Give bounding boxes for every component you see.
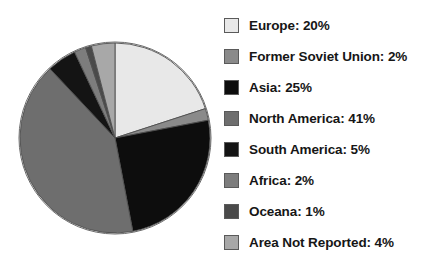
swatch-africa [224, 173, 239, 188]
legend-item-label: Asia: 25% [249, 81, 312, 95]
legend-item: Area Not Reported: 4% [224, 227, 437, 258]
legend-item: Asia: 25% [224, 72, 437, 103]
chart-legend: Europe: 20%Former Soviet Union: 2%Asia: … [224, 10, 437, 265]
legend-item-label: Africa: 2% [249, 174, 314, 188]
swatch-europe [224, 18, 239, 33]
legend-item: North America: 41% [224, 103, 437, 134]
legend-item: Former Soviet Union: 2% [224, 41, 437, 72]
legend-item-label: Europe: 20% [249, 19, 330, 33]
legend-item-label: South America: 5% [249, 143, 370, 157]
swatch-former-soviet-union [224, 49, 239, 64]
legend-item-label: Oceana: 1% [249, 205, 325, 219]
pie-chart-plot-area [0, 0, 220, 270]
legend-item-label: North America: 41% [249, 112, 375, 126]
swatch-asia [224, 80, 239, 95]
legend-item: South America: 5% [224, 134, 437, 165]
swatch-north-america [224, 111, 239, 126]
legend-item: Africa: 2% [224, 165, 437, 196]
pie-chart-figure: Europe: 20%Former Soviet Union: 2%Asia: … [0, 0, 437, 270]
swatch-oceana [224, 204, 239, 219]
legend-item-label: Former Soviet Union: 2% [249, 50, 407, 64]
swatch-area-not-reported [224, 235, 239, 250]
legend-item: Oceana: 1% [224, 196, 437, 227]
pie-chart-svg [0, 0, 220, 270]
legend-item: Europe: 20% [224, 10, 437, 41]
legend-item-label: Area Not Reported: 4% [249, 236, 394, 250]
swatch-south-america [224, 142, 239, 157]
